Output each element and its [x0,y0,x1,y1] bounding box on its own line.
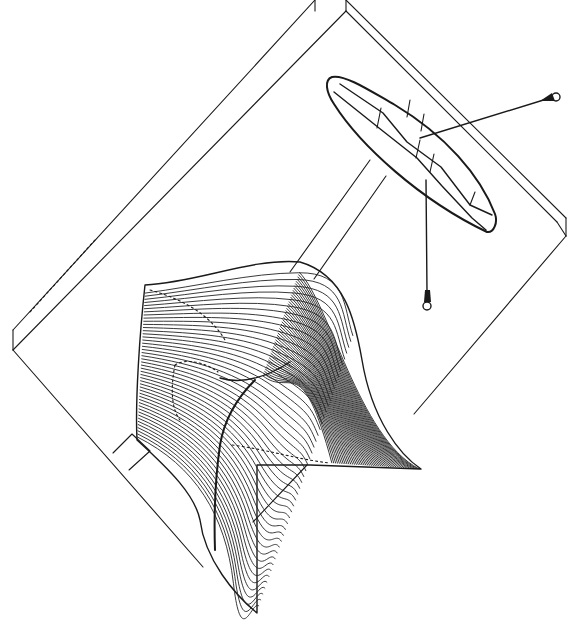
surface-dotted-bottom [232,445,330,463]
surface-ribs [137,272,419,618]
lens-tick-3 [430,154,434,172]
diagram-svg [0,0,570,631]
rail-lower-stub [113,434,150,470]
lens-channel-upper [340,84,492,215]
plate-edge-bottom-right-upper [414,236,566,414]
wire-down-taper [424,290,431,302]
surface-rib [138,424,267,590]
plate-edge-bottom-left [13,350,203,567]
plate-right-corner-bevel [557,222,566,236]
lens-tick-4 [470,192,475,205]
plate-edge-top-right-inner [346,11,557,222]
slab-plate [13,0,566,567]
eyelet-down-icon [423,302,431,310]
rail-upper-line-2 [314,176,386,279]
surface-rib [142,349,316,441]
surface-crease [215,380,255,550]
lead-wire-down [426,180,427,292]
wave-surface [137,262,421,619]
diagram-canvas: Isometric patent-style drawing of a rota… [0,0,570,631]
plate-edge-bottom-right-lower [253,465,307,522]
surface-rib [139,412,276,561]
lens-element [327,77,496,232]
